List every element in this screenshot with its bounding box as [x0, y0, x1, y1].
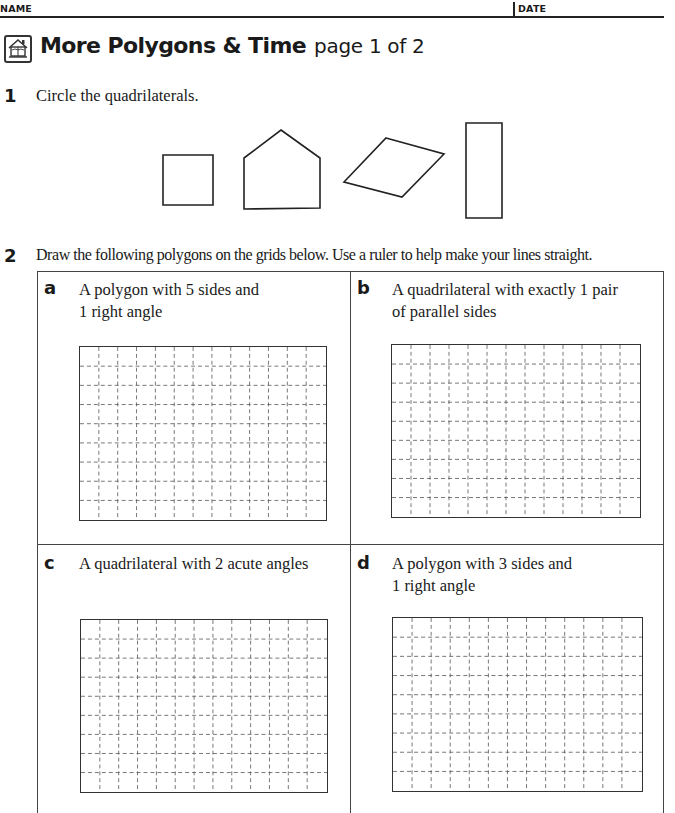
part-c-letter: c — [44, 552, 55, 573]
part-b-line-1: A quadrilateral with exactly 1 pair — [392, 279, 618, 301]
part-c-prompt: A quadrilateral with 2 acute angles — [79, 553, 309, 575]
question-2-number: 2 — [4, 245, 17, 266]
pentagon-shape[interactable] — [244, 130, 320, 209]
question-1-shapes — [0, 0, 675, 240]
table-center-divider — [350, 271, 351, 813]
table-row-divider — [37, 544, 664, 545]
part-a-drawing-grid[interactable] — [79, 346, 327, 521]
part-a-line-1: A polygon with 5 sides and — [79, 279, 259, 301]
part-a-line-2: 1 right angle — [79, 301, 259, 323]
question-2-text: Draw the following polygons on the grids… — [36, 246, 592, 264]
part-d-drawing-grid[interactable] — [392, 617, 643, 792]
table-right-border — [663, 271, 664, 813]
square-shape[interactable] — [163, 155, 213, 205]
grid-lines — [392, 345, 640, 517]
grid-lines — [81, 620, 327, 792]
grid-lines — [80, 347, 326, 520]
part-b-line-2: of parallel sides — [392, 301, 618, 323]
part-a-prompt: A polygon with 5 sides and 1 right angle — [79, 279, 259, 323]
table-left-border — [37, 271, 38, 813]
part-d-line-1: A polygon with 3 sides and — [392, 553, 572, 575]
grid-lines — [393, 618, 642, 791]
part-b-letter: b — [357, 277, 370, 298]
part-c-line-1: A quadrilateral with 2 acute angles — [79, 553, 309, 575]
rectangle-shape[interactable] — [466, 123, 502, 218]
part-c-drawing-grid[interactable] — [80, 619, 328, 793]
rhombus-shape[interactable] — [344, 138, 444, 197]
part-d-prompt: A polygon with 3 sides and 1 right angle — [392, 553, 572, 597]
part-a-letter: a — [44, 277, 56, 298]
part-b-drawing-grid[interactable] — [391, 344, 641, 518]
part-d-letter: d — [357, 552, 370, 573]
part-d-line-2: 1 right angle — [392, 575, 572, 597]
part-b-prompt: A quadrilateral with exactly 1 pair of p… — [392, 279, 618, 323]
